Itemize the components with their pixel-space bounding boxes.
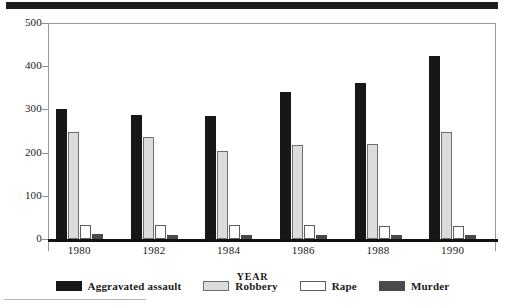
- x-axis-tick-label: 1990: [423, 244, 483, 257]
- bar-robbery-1984: [217, 151, 228, 239]
- x-axis-tick-label: 1988: [348, 244, 408, 257]
- y-axis-tick-label: 100: [0, 190, 42, 201]
- bar-murder-1980: [92, 234, 103, 239]
- bar-assault-1990: [429, 56, 440, 239]
- bottom-divider-rule: [4, 299, 146, 300]
- bar-murder-1982: [167, 235, 178, 239]
- bars-layer: [48, 12, 496, 242]
- legend-swatch-rape: [300, 281, 326, 291]
- x-axis-tick-label: 1982: [124, 244, 184, 257]
- bar-rape-1988: [379, 226, 390, 239]
- bar-murder-1986: [316, 235, 327, 239]
- bar-assault-1988: [355, 83, 366, 239]
- bar-robbery-1986: [292, 145, 303, 239]
- legend-label: Rape: [332, 281, 357, 292]
- bar-assault-1984: [205, 116, 216, 239]
- bar-rape-1990: [453, 226, 464, 239]
- x-axis: 198019821984198619881990: [48, 244, 496, 260]
- y-axis-tick-label: 400: [0, 60, 42, 71]
- legend-item-robbery[interactable]: Robbery: [203, 281, 277, 292]
- legend-item-murder[interactable]: Murder: [379, 281, 449, 292]
- legend-swatch-robbery: [203, 281, 229, 291]
- y-axis-tick-label: 300: [0, 103, 42, 114]
- legend-swatch-assault: [56, 281, 82, 291]
- bar-assault-1980: [56, 109, 67, 239]
- x-axis-tick-label: 1986: [273, 244, 333, 257]
- legend-item-rape[interactable]: Rape: [300, 281, 357, 292]
- y-axis-tick-label: 500: [0, 17, 42, 28]
- bar-murder-1988: [391, 235, 402, 239]
- legend-label: Robbery: [235, 281, 277, 292]
- bar-chart: 5004003002001000 19801982198419861988199…: [0, 12, 505, 260]
- bar-murder-1984: [241, 235, 252, 239]
- legend-label: Aggravated assault: [88, 281, 182, 292]
- y-axis-tick-label: 200: [0, 147, 42, 158]
- chart-legend: Aggravated assaultRobberyRapeMurder: [0, 278, 505, 294]
- bar-rape-1980: [80, 225, 91, 239]
- bar-rape-1984: [229, 225, 240, 239]
- x-axis-tick-label: 1984: [199, 244, 259, 257]
- bar-robbery-1982: [143, 137, 154, 239]
- legend-swatch-murder: [379, 281, 405, 291]
- bar-robbery-1988: [367, 144, 378, 239]
- bar-rape-1982: [155, 225, 166, 239]
- x-axis-tick-label: 1980: [49, 244, 109, 257]
- bar-rape-1986: [304, 225, 315, 239]
- y-axis-tick-label: 0: [0, 233, 42, 244]
- bar-murder-1990: [465, 235, 476, 239]
- top-divider-rule: [6, 2, 498, 9]
- legend-item-assault[interactable]: Aggravated assault: [56, 281, 182, 292]
- bar-robbery-1980: [68, 132, 79, 239]
- bar-robbery-1990: [441, 132, 452, 239]
- bar-assault-1986: [280, 92, 291, 239]
- legend-label: Murder: [411, 281, 449, 292]
- bar-assault-1982: [131, 115, 142, 239]
